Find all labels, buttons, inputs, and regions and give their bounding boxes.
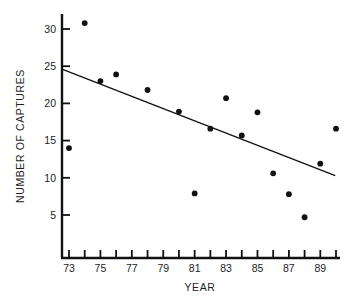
x-tick-label-81: 81: [189, 262, 201, 274]
x-tick-label-79: 79: [157, 262, 169, 274]
data-point: [98, 78, 104, 84]
y-tick-label-15: 15: [44, 134, 56, 146]
x-tick-label-87: 87: [283, 262, 295, 274]
data-point: [192, 191, 198, 197]
data-point: [270, 170, 276, 176]
data-point: [66, 145, 72, 151]
data-point: [145, 87, 151, 93]
data-point: [255, 109, 261, 115]
regression-trendline: [62, 69, 335, 175]
x-tick-label-89: 89: [314, 262, 326, 274]
data-point-group: [66, 20, 339, 220]
x-tick-label-85: 85: [252, 262, 264, 274]
x-axis-tick-labels: 737577798183858789: [63, 262, 326, 274]
x-tick-label-75: 75: [95, 262, 107, 274]
y-tick-label-20: 20: [44, 97, 56, 109]
y-tick-label-10: 10: [44, 172, 56, 184]
data-point: [317, 161, 323, 167]
x-tick-label-77: 77: [126, 262, 138, 274]
data-point: [333, 126, 339, 132]
data-point: [239, 132, 245, 138]
x-tick-label-83: 83: [220, 262, 232, 274]
data-point: [82, 20, 88, 26]
data-point: [207, 126, 213, 132]
y-tick-label-5: 5: [50, 209, 56, 221]
scatter-plot-canvas: 30 25 20 15 10 5 NUMBER OF CAPTURES 7375…: [0, 0, 353, 301]
chart-figure: 30 25 20 15 10 5 NUMBER OF CAPTURES 7375…: [0, 0, 353, 301]
data-point: [113, 71, 119, 77]
y-axis-title: NUMBER OF CAPTURES: [14, 69, 26, 203]
x-axis-title: YEAR: [185, 281, 216, 293]
data-point: [176, 109, 182, 115]
y-axis-tick-labels: 30 25 20 15 10 5: [44, 23, 56, 221]
x-tick-label-73: 73: [63, 262, 75, 274]
y-tick-label-30: 30: [44, 23, 56, 35]
data-point: [302, 214, 308, 220]
data-point: [223, 95, 229, 101]
y-tick-label-25: 25: [44, 60, 56, 72]
data-point: [286, 191, 292, 197]
